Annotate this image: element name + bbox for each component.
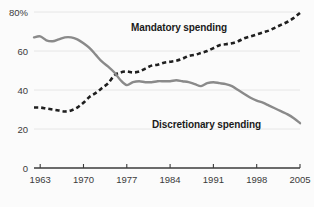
y-axis-tick-label: 40 [17,85,28,96]
series-label-mandatory: Mandatory spending [131,22,227,33]
series-line-discretionary [34,36,300,123]
x-axis-tick-labels: 1963197019771984199119982005 [30,174,311,185]
series-label-discretionary: Discretionary spending [152,119,261,130]
x-axis-tick-label: 1970 [73,174,94,185]
chart-container: 80%6040200 1963197019771984199119982005 … [0,0,314,207]
y-axis-tick-label: 60 [17,46,28,57]
x-axis-tick-label: 1984 [160,174,181,185]
y-axis-tick-labels: 80%6040200 [9,7,29,174]
x-axis-tick-label: 1977 [116,174,137,185]
y-axis-tick-label: 80% [9,7,29,18]
x-axis-tick-label: 1963 [30,174,51,185]
y-axis-tick-label: 0 [23,163,28,174]
x-axis-tick-label: 2005 [289,174,310,185]
x-axis-tick-label: 1991 [203,174,224,185]
x-axis-tick-label: 1998 [246,174,267,185]
line-chart: 80%6040200 1963197019771984199119982005 … [0,0,314,207]
y-axis-tick-label: 20 [17,124,28,135]
